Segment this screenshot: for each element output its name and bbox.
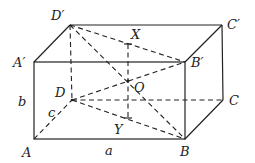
point-o-dot (127, 80, 130, 83)
point-d-dot (71, 99, 74, 102)
label-a1: A′ (12, 55, 25, 70)
label-edge-c: c (48, 105, 56, 120)
label-c: C (229, 93, 239, 108)
edge-a1-d1 (34, 25, 70, 62)
label-b1: B′ (190, 55, 204, 70)
label-edge-a: a (105, 143, 113, 158)
label-a: A (21, 145, 31, 160)
label-d: D (54, 85, 66, 100)
diagram-canvas: D′ C′ A′ B′ A B C D X O Y a b c (0, 0, 255, 163)
label-b: B (179, 144, 190, 159)
label-c1: C′ (227, 17, 240, 32)
labels: D′ C′ A′ B′ A B C D X O Y a b c (12, 8, 240, 160)
edge-b-c (185, 100, 223, 139)
label-y: Y (114, 122, 124, 137)
point-markers (71, 44, 132, 118)
label-o: O (134, 80, 145, 95)
label-x: X (130, 27, 141, 42)
box-diagram: D′ C′ A′ B′ A B C D X O Y a b c (0, 0, 255, 163)
label-d1: D′ (50, 8, 64, 23)
label-edge-b: b (18, 94, 26, 109)
edge-c1-c (222, 25, 223, 100)
